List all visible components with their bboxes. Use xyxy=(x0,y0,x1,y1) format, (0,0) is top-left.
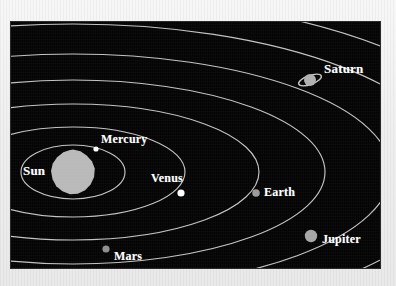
orbit-earth xyxy=(11,104,259,240)
mars-label: Mars xyxy=(114,250,142,262)
sun-label: Sun xyxy=(23,164,45,177)
mars-disc xyxy=(102,245,109,252)
saturn-disc xyxy=(304,74,316,86)
figure-canvas: SunMercuryVenusEarthMarsJupiterSaturn xyxy=(0,0,396,286)
venus-label: Venus xyxy=(151,172,183,184)
planet-bodies xyxy=(93,72,322,253)
earth-disc xyxy=(252,189,260,197)
mercury-disc xyxy=(93,146,98,151)
sun-disc xyxy=(51,150,95,195)
jupiter-disc xyxy=(305,230,317,242)
jupiter-label: Jupiter xyxy=(322,233,361,245)
saturn-label: Saturn xyxy=(324,62,364,75)
venus-disc xyxy=(177,189,184,196)
mercury-label: Mercury xyxy=(101,133,148,145)
solar-system-plate: SunMercuryVenusEarthMarsJupiterSaturn xyxy=(11,22,380,268)
sun-body xyxy=(51,150,95,195)
earth-label: Earth xyxy=(264,186,295,198)
